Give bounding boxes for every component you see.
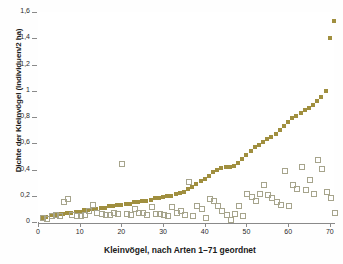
data-point-filled: [236, 161, 240, 165]
y-tick-mark: [32, 38, 37, 39]
y-tick-label: 0,4: [8, 165, 30, 172]
data-point-filled: [328, 36, 332, 40]
y-tick-mark: [32, 170, 37, 171]
data-point-open: [165, 213, 171, 219]
data-point-open: [303, 187, 309, 193]
data-point-filled: [315, 99, 319, 103]
data-point-open: [278, 202, 284, 208]
data-point-open: [65, 196, 71, 202]
x-axis-line: [38, 223, 335, 224]
y-tick-label: 1,6: [8, 7, 30, 14]
x-tick-label: 0: [28, 228, 48, 235]
y-tick-mark: [32, 65, 37, 66]
chart-figure: Dichte der Kleinvögel (Individuen/2 ha) …: [0, 0, 343, 264]
data-point-open: [261, 182, 267, 188]
x-tick-label: 40: [195, 228, 215, 235]
x-tick-label: 50: [236, 228, 256, 235]
x-tick-mark: [121, 223, 122, 227]
y-tick-mark: [32, 222, 37, 223]
data-point-filled: [332, 19, 336, 23]
x-tick-mark: [38, 223, 39, 227]
data-point-open: [299, 164, 305, 170]
data-point-filled: [311, 103, 315, 107]
data-point-open: [311, 191, 317, 197]
y-tick-mark: [32, 143, 37, 144]
data-point-open: [119, 161, 125, 167]
data-point-open: [286, 203, 292, 209]
data-point-open: [57, 213, 63, 219]
data-point-filled: [324, 89, 328, 93]
x-tick-mark: [80, 223, 81, 227]
data-point-filled: [278, 128, 282, 132]
data-point-open: [257, 191, 263, 197]
data-point-filled: [274, 132, 278, 136]
data-point-open: [324, 189, 330, 195]
y-tick-mark: [32, 196, 37, 197]
data-point-filled: [286, 120, 290, 124]
data-point-open: [294, 186, 300, 192]
y-tick-label: 0: [8, 217, 30, 224]
data-point-open: [186, 179, 192, 185]
x-tick-mark: [246, 223, 247, 227]
x-tick-mark: [205, 223, 206, 227]
data-point-filled: [249, 149, 253, 153]
x-tick-mark: [330, 223, 331, 227]
data-point-open: [253, 198, 259, 204]
data-point-open: [315, 157, 321, 163]
data-point-open: [232, 211, 238, 217]
data-point-filled: [207, 174, 211, 178]
x-tick-label: 10: [70, 228, 90, 235]
y-tick-label: 1,4: [8, 33, 30, 40]
data-point-open: [319, 166, 325, 172]
data-point-open: [240, 213, 246, 219]
data-point-open: [328, 195, 334, 201]
y-tick-label: 0,2: [8, 191, 30, 198]
x-tick-label: 70: [320, 228, 340, 235]
y-tick-label: 0,6: [8, 138, 30, 145]
data-point-open: [86, 208, 92, 214]
x-axis-title: Kleinvögel, nach Arten 1–71 geordnet: [30, 245, 330, 255]
y-axis-title: Dichte der Kleinvögel (Individuen/2 ha): [14, 21, 23, 181]
plot-area: [38, 12, 334, 222]
y-tick-mark: [32, 91, 37, 92]
data-point-open: [307, 177, 313, 183]
data-point-filled: [240, 157, 244, 161]
data-point-open: [149, 204, 155, 210]
data-point-open: [115, 211, 121, 217]
data-point-open: [203, 215, 209, 221]
y-tick-label: 1,2: [8, 60, 30, 67]
y-tick-mark: [32, 117, 37, 118]
x-tick-label: 30: [153, 228, 173, 235]
data-point-open: [90, 202, 96, 208]
x-tick-label: 60: [278, 228, 298, 235]
data-point-open: [199, 206, 205, 212]
y-tick-label: 1: [8, 86, 30, 93]
data-point-open: [144, 212, 150, 218]
y-tick-label: 0,8: [8, 112, 30, 119]
x-tick-mark: [163, 223, 164, 227]
data-point-open: [332, 210, 338, 216]
x-tick-label: 20: [111, 228, 131, 235]
y-tick-mark: [32, 12, 37, 13]
data-point-open: [236, 203, 242, 209]
data-point-open: [228, 217, 234, 223]
data-point-filled: [282, 124, 286, 128]
data-point-open: [282, 168, 288, 174]
data-point-open: [190, 213, 196, 219]
data-point-filled: [319, 95, 323, 99]
data-point-open: [182, 212, 188, 218]
x-tick-mark: [288, 223, 289, 227]
data-point-open: [128, 212, 134, 218]
data-point-filled: [244, 153, 248, 157]
